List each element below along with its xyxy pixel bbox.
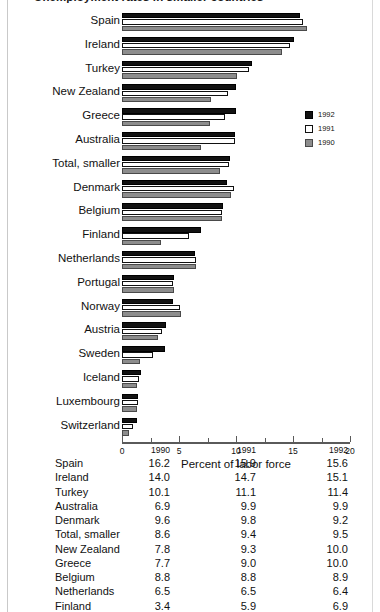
bar-1990 <box>122 335 158 340</box>
chart-bar-group <box>122 84 236 102</box>
chart-category-label: Denmark <box>0 181 120 194</box>
table-cell: 9.2 <box>288 513 348 527</box>
table-cell: 14.7 <box>196 470 256 484</box>
chart-title-text: Unemployment rates in smaller countries <box>34 0 264 3</box>
bar-1990 <box>122 216 222 221</box>
table-cell: 10.0 <box>288 556 348 570</box>
table-row: Finland3.45.96.9 <box>0 599 380 612</box>
table-cell: 7.8 <box>110 542 170 556</box>
page-root: Unemployment rates in smaller countries … <box>0 0 380 612</box>
table-cell: 9.5 <box>288 527 348 541</box>
x-axis-minor-tick <box>265 438 266 442</box>
table-cell: 15.1 <box>288 470 348 484</box>
table-row-label: Spain <box>55 456 83 470</box>
chart-bar-group <box>122 370 141 388</box>
x-axis-tick <box>179 436 180 442</box>
table-column-header: 1991 <box>196 445 256 455</box>
chart-category-label: Sweden <box>0 347 120 360</box>
chart-row: Luxembourg <box>0 393 380 417</box>
table-row-label: Greece <box>55 556 91 570</box>
table-cell: 6.5 <box>196 584 256 598</box>
bar-1990 <box>122 192 231 197</box>
bar-1990 <box>122 359 140 364</box>
chart-bar-group <box>122 251 196 269</box>
chart-row: Sweden <box>0 345 380 369</box>
bar-1990 <box>122 240 161 245</box>
chart-category-label: Australia <box>0 133 120 146</box>
chart-category-label: Netherlands <box>0 252 120 265</box>
chart-row: Denmark <box>0 179 380 203</box>
table-cell: 8.9 <box>288 570 348 584</box>
x-axis-tick <box>350 436 351 442</box>
chart-bar-group <box>122 203 223 221</box>
chart-category-label: Luxembourg <box>0 395 120 408</box>
table-row: Denmark9.69.89.2 <box>0 513 380 527</box>
chart-category-label: Norway <box>0 300 120 313</box>
chart-category-label: Austria <box>0 323 120 336</box>
table-cell: 9.0 <box>196 556 256 570</box>
bar-1990 <box>122 406 137 411</box>
table-cell: 9.9 <box>288 499 348 513</box>
chart-row: Turkey <box>0 60 380 84</box>
legend-swatch-1992 <box>305 111 313 119</box>
table-row-label: Turkey <box>55 485 88 499</box>
chart-bar-group <box>122 180 234 198</box>
legend-swatch-1991 <box>305 125 313 133</box>
table-cell: 9.9 <box>196 499 256 513</box>
table-cell: 6.4 <box>288 584 348 598</box>
chart-row: Finland <box>0 226 380 250</box>
chart-row: Total, smaller <box>0 155 380 179</box>
table-row: Australia6.99.99.9 <box>0 499 380 513</box>
x-axis-minor-tick <box>151 438 152 442</box>
table-cell: 11.4 <box>288 485 348 499</box>
chart-category-label: New Zealand <box>0 85 120 98</box>
bar-1990 <box>122 49 282 54</box>
chart-row: Netherlands <box>0 250 380 274</box>
chart-legend: 199219911990 <box>305 109 335 151</box>
chart-bar-group <box>122 275 174 293</box>
bar-1990 <box>122 264 196 269</box>
table-row: Total, smaller8.69.49.5 <box>0 527 380 541</box>
bar-1990 <box>122 145 201 150</box>
table-cell: 6.9 <box>110 499 170 513</box>
table-row-label: Finland <box>55 599 91 612</box>
chart-category-label: Ireland <box>0 38 120 51</box>
table-row: Spain16.215.915.6 <box>0 456 380 470</box>
table-cell: 9.3 <box>196 542 256 556</box>
table-cell: 16.2 <box>110 456 170 470</box>
bar-1990 <box>122 287 174 292</box>
table-column-header: 1992 <box>288 445 348 455</box>
table-row-label: Australia <box>55 499 98 513</box>
bar-1990 <box>122 73 237 78</box>
chart-row: Spain <box>0 12 380 36</box>
chart-category-label: Portugal <box>0 276 120 289</box>
table-cell: 7.7 <box>110 556 170 570</box>
table-cell: 14.0 <box>110 470 170 484</box>
legend-item: 1991 <box>305 123 335 134</box>
table-cell: 5.9 <box>196 599 256 612</box>
legend-label: 1990 <box>318 139 335 147</box>
chart-row: Norway <box>0 298 380 322</box>
table-row-label: Denmark <box>55 513 100 527</box>
bar-1990 <box>122 168 220 173</box>
table-cell: 10.0 <box>288 542 348 556</box>
chart-bar-group <box>122 61 252 79</box>
bar-1990 <box>122 430 129 435</box>
chart-bar-group <box>122 108 236 126</box>
legend-label: 1992 <box>318 111 335 119</box>
chart-row: Portugal <box>0 274 380 298</box>
chart-row: Ireland <box>0 36 380 60</box>
table-cell: 8.6 <box>110 527 170 541</box>
chart-row: Switzerland <box>0 417 380 441</box>
chart-bar-group <box>122 322 166 340</box>
table-cell: 6.9 <box>288 599 348 612</box>
chart-bar-group <box>122 13 307 31</box>
legend-item: 1992 <box>305 109 335 120</box>
x-axis-minor-tick <box>322 438 323 442</box>
chart-category-label: Switzerland <box>0 419 120 432</box>
table-cell: 10.1 <box>110 485 170 499</box>
table-row: Ireland14.014.715.1 <box>0 470 380 484</box>
chart-row: Iceland <box>0 369 380 393</box>
chart-row: Austria <box>0 321 380 345</box>
table-row: Turkey10.111.111.4 <box>0 485 380 499</box>
